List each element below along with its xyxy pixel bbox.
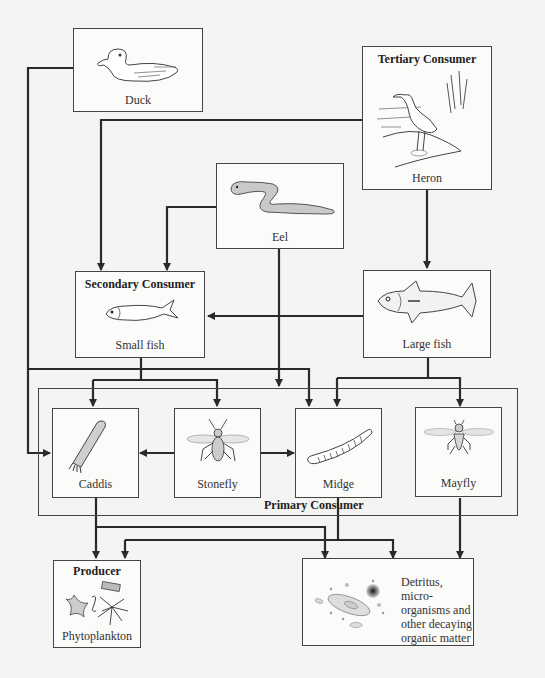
duck-label: Duck <box>74 93 202 108</box>
detritus-line-3: other decaying <box>401 617 473 631</box>
edge-eel-small-fish <box>167 207 216 270</box>
tertiary-consumer-title: Tertiary Consumer <box>363 52 491 67</box>
duck-icon <box>94 43 184 87</box>
caddis-icon <box>67 419 111 475</box>
producer-title: Producer <box>54 564 140 579</box>
phytoplankton-label: Phytoplankton <box>54 629 140 644</box>
detritus-line-1: Detritus, micro- <box>401 575 473 603</box>
node-mayfly[interactable]: Mayfly <box>415 407 502 497</box>
large-fish-icon <box>376 279 480 327</box>
midge-label: Midge <box>296 477 381 492</box>
primary-consumer-title: Primary Consumer <box>264 498 364 513</box>
stonefly-icon <box>185 417 251 473</box>
node-caddis[interactable]: Caddis <box>52 408 139 498</box>
small-fish-icon <box>102 298 180 326</box>
node-duck[interactable]: Duck <box>73 28 203 112</box>
detritus-line-4: organic matter <box>401 631 473 645</box>
node-large-fish[interactable]: Large fish <box>363 270 491 358</box>
node-detritus[interactable]: Detritus, micro- organisms and other dec… <box>302 558 474 646</box>
phytoplankton-icon <box>62 581 134 627</box>
caddis-label: Caddis <box>53 477 138 492</box>
node-stonefly[interactable]: Stonefly <box>174 408 261 498</box>
node-heron[interactable]: Tertiary Consumer Heron <box>362 46 492 190</box>
mayfly-label: Mayfly <box>416 476 501 491</box>
mayfly-icon <box>424 420 494 470</box>
eel-icon <box>227 174 337 224</box>
large-fish-label: Large fish <box>364 337 490 352</box>
detritus-icon <box>311 575 391 635</box>
detritus-label: Detritus, micro- organisms and other dec… <box>401 575 473 645</box>
heron-label: Heron <box>363 171 491 186</box>
node-phytoplankton[interactable]: Producer Phytoplankton <box>53 560 141 648</box>
stonefly-label: Stonefly <box>175 477 260 492</box>
edge-midge-phyto <box>125 540 393 558</box>
node-midge[interactable]: Midge <box>295 408 382 498</box>
small-fish-label: Small fish <box>76 338 204 353</box>
node-small-fish[interactable]: Secondary Consumer Small fish <box>75 271 205 358</box>
heron-icon <box>371 69 483 169</box>
midge-icon <box>304 423 376 467</box>
edge-caddis-detritus <box>96 527 325 558</box>
node-eel[interactable]: Eel <box>216 163 344 249</box>
secondary-consumer-title: Secondary Consumer <box>76 277 204 292</box>
detritus-line-2: organisms and <box>401 603 473 617</box>
eel-label: Eel <box>217 230 343 245</box>
